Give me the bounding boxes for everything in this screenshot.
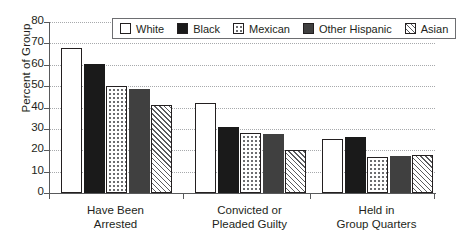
legend-swatch-icon [177, 23, 188, 34]
x-axis-tick-mark [434, 193, 435, 199]
bar [106, 86, 127, 193]
x-axis-category-line: Arrested [46, 217, 186, 231]
x-axis-category-line: Group Quarters [307, 217, 447, 231]
y-axis-tick-label: 40 [0, 101, 44, 113]
x-axis-tick-mark [49, 193, 50, 199]
legend-item[interactable]: White [120, 23, 164, 35]
bar [61, 48, 82, 193]
legend-item-label: Other Hispanic [319, 23, 392, 35]
legend-item[interactable]: Mexican [233, 23, 290, 35]
y-axis-tick-label: 50 [0, 79, 44, 91]
legend-swatch-icon [233, 23, 244, 34]
y-axis-tick-label: 30 [0, 122, 44, 134]
legend-swatch-icon [303, 23, 314, 34]
x-axis-line [44, 193, 436, 195]
plot-area [49, 22, 434, 193]
bar [129, 89, 150, 193]
bar [195, 103, 216, 193]
y-axis-ticks: 01020304050607080 [0, 0, 44, 242]
bar [218, 127, 239, 193]
bar-group [322, 22, 433, 193]
x-axis-category-line: Have Been [46, 203, 186, 217]
legend-item-label: Black [193, 23, 220, 35]
bar [412, 155, 433, 193]
bar [285, 150, 306, 193]
y-axis-tick-label: 80 [0, 15, 44, 27]
y-axis-tick-label: 0 [0, 186, 44, 198]
x-axis-category-line: Pleaded Guilty [180, 217, 320, 231]
x-axis-category-line: Convicted or [180, 203, 320, 217]
y-axis-tick-label: 70 [0, 36, 44, 48]
bar-group [61, 22, 172, 193]
x-axis-category-line: Held in [307, 203, 447, 217]
bar [84, 64, 105, 193]
legend-item-label: Asian [421, 23, 449, 35]
chart-legend: WhiteBlackMexicanOther HispanicAsian [112, 18, 456, 39]
bar [263, 134, 284, 193]
y-axis-tick-label: 10 [0, 165, 44, 177]
x-axis-tick-mark [183, 193, 184, 199]
legend-item[interactable]: Asian [405, 23, 449, 35]
x-axis-category-label: Have BeenArrested [46, 203, 186, 231]
bar [345, 137, 366, 193]
bar [367, 157, 388, 193]
bar [322, 139, 343, 194]
legend-item-label: Mexican [249, 23, 290, 35]
x-axis-tick-mark [310, 193, 311, 199]
bar [390, 156, 411, 193]
legend-swatch-icon [405, 23, 416, 34]
x-axis-category-label: Held inGroup Quarters [307, 203, 447, 231]
legend-item-label: White [136, 23, 164, 35]
legend-item[interactable]: Black [177, 23, 220, 35]
bar [151, 105, 172, 193]
bar [240, 133, 261, 193]
y-axis-tick-label: 60 [0, 58, 44, 70]
x-axis-category-label: Convicted orPleaded Guilty [180, 203, 320, 231]
y-axis-tick-label: 20 [0, 143, 44, 155]
legend-swatch-icon [120, 23, 131, 34]
legend-item[interactable]: Other Hispanic [303, 23, 392, 35]
bar-group [195, 22, 306, 193]
